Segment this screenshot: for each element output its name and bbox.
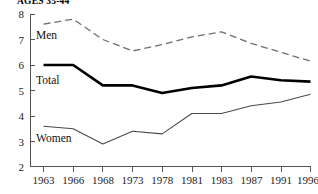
x-tick-label: 1963 bbox=[33, 174, 55, 186]
y-tick-label: 3 bbox=[19, 137, 25, 148]
y-axis-ticks bbox=[31, 15, 36, 142]
series-line-women bbox=[44, 94, 311, 144]
chart-title: AGES 35-44 bbox=[17, 0, 69, 6]
x-axis-tick-labels: 1963 1966 1968 1973 1978 1981 1983 1987 … bbox=[30, 174, 311, 190]
x-tick-label: 1987 bbox=[240, 174, 262, 186]
x-tick-label: 1981 bbox=[181, 174, 203, 186]
x-tick-label: 1996 bbox=[297, 174, 318, 186]
y-tick-label: 7 bbox=[19, 35, 25, 46]
series-label-total: Total bbox=[36, 74, 59, 86]
y-tick-label: 6 bbox=[19, 60, 25, 71]
series-label-women: Women bbox=[36, 132, 71, 144]
y-axis-tick-labels: 8 7 6 5 4 3 2 bbox=[0, 14, 24, 167]
y-tick-label: 5 bbox=[19, 86, 25, 97]
x-tick-label: 1973 bbox=[122, 174, 144, 186]
series-line-men bbox=[44, 19, 311, 61]
chart-svg bbox=[30, 14, 311, 167]
y-tick-label: 8 bbox=[19, 9, 25, 20]
plot-area bbox=[30, 14, 311, 167]
x-tick-label: 1966 bbox=[62, 174, 84, 186]
x-tick-label: 1991 bbox=[270, 174, 292, 186]
x-tick-label: 1968 bbox=[92, 174, 114, 186]
series-line-total bbox=[44, 65, 311, 93]
x-axis-ticks bbox=[44, 167, 311, 173]
y-tick-label: 4 bbox=[19, 111, 25, 122]
x-tick-label: 1978 bbox=[151, 174, 173, 186]
chart-container: AGES 35-44 8 7 6 5 4 3 2 bbox=[0, 0, 318, 194]
x-tick-label: 1983 bbox=[211, 174, 233, 186]
y-tick-label: 2 bbox=[19, 162, 25, 173]
series-label-men: Men bbox=[36, 29, 57, 41]
